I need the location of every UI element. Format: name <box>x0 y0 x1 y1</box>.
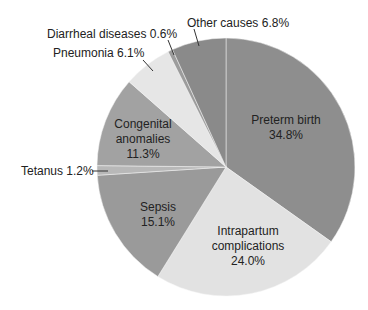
label-pneumonia: Pneumonia 6.1% <box>53 46 144 60</box>
label-intrapartum-line1: Intrapartum <box>208 224 288 238</box>
label-tetanus: Tetanus 1.2% <box>21 164 94 178</box>
label-congenital-line2: anomalies <box>110 132 176 146</box>
label-sepsis-pct: 15.1% <box>128 215 188 229</box>
label-diarrheal: Diarrheal diseases 0.6% <box>47 27 177 41</box>
label-preterm-name: Preterm birth <box>246 113 326 127</box>
label-sepsis: Sepsis 15.1% <box>128 200 188 229</box>
label-preterm-birth: Preterm birth 34.8% <box>246 113 326 142</box>
label-other-causes: Other causes 6.8% <box>187 16 289 30</box>
label-congenital-line1: Congenital <box>110 117 176 131</box>
label-intrapartum-line2: complications <box>208 239 288 253</box>
label-congenital: Congenital anomalies 11.3% <box>110 117 176 161</box>
label-sepsis-name: Sepsis <box>128 200 188 214</box>
label-preterm-pct: 34.8% <box>246 128 326 142</box>
label-intrapartum: Intrapartum complications 24.0% <box>208 224 288 268</box>
label-congenital-pct: 11.3% <box>110 147 176 161</box>
label-intrapartum-pct: 24.0% <box>208 254 288 268</box>
